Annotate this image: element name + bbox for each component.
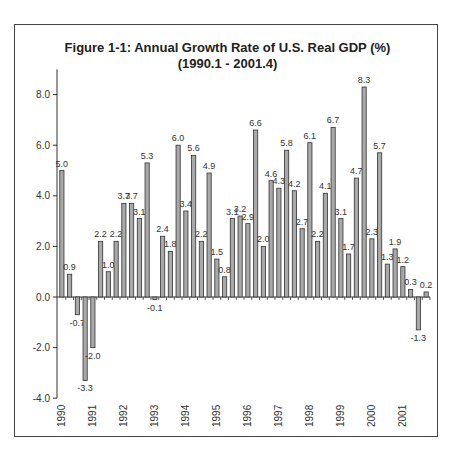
data-label: 2.2 [311, 229, 324, 239]
bar [192, 155, 196, 297]
bar [316, 241, 320, 297]
data-label: 1.2 [397, 255, 410, 265]
bar [409, 289, 413, 297]
x-tick-label: 1993 [149, 404, 160, 427]
x-tick-label: 2000 [366, 404, 377, 427]
bar [378, 153, 382, 297]
x-tick-label: 1991 [87, 404, 98, 427]
x-tick-label: 1999 [335, 404, 346, 427]
bar [347, 254, 351, 297]
bar [323, 193, 327, 297]
data-label: 5.0 [56, 159, 69, 169]
bar [308, 143, 312, 297]
bar [91, 297, 95, 348]
bar [207, 173, 211, 297]
bar [223, 277, 227, 297]
data-label: 2.4 [156, 224, 169, 234]
bar [168, 251, 172, 297]
data-label: -2.0 [85, 351, 101, 361]
data-label: 5.3 [141, 151, 154, 161]
y-tick-label: 6.0 [36, 140, 50, 151]
y-tick-label: -2.0 [33, 342, 51, 353]
bar [230, 219, 234, 297]
data-label: 2.7 [296, 217, 309, 227]
x-tick-label: 1992 [118, 404, 129, 427]
data-label: 0.9 [63, 262, 76, 272]
y-tick-label: 0.0 [36, 292, 50, 303]
data-label: -3.3 [77, 383, 93, 393]
data-label: 1.9 [389, 237, 402, 247]
data-label: 0.3 [404, 277, 417, 287]
data-label: 2.2 [110, 229, 123, 239]
bar [137, 219, 141, 297]
y-tick-label: 2.0 [36, 241, 50, 252]
data-label: 4.7 [350, 166, 363, 176]
bar [292, 191, 296, 297]
y-tick-label: -4.0 [33, 393, 51, 404]
bar [75, 297, 79, 315]
bar [261, 246, 265, 297]
bar [416, 297, 420, 330]
y-tick-label: 8.0 [36, 89, 50, 100]
data-label: 6.7 [327, 115, 340, 125]
data-label: 2.3 [366, 227, 379, 237]
data-label: 5.7 [373, 141, 386, 151]
bar [176, 145, 180, 297]
data-label: 4.2 [288, 179, 301, 189]
bar [254, 130, 258, 297]
data-label: 2.2 [94, 229, 107, 239]
bar [106, 272, 110, 297]
data-label: 0.2 [420, 280, 433, 290]
bar [114, 241, 118, 297]
data-label: 1.3 [381, 252, 394, 262]
bar [145, 163, 149, 297]
bar-chart: -4.0-2.00.02.04.06.08.05.00.9-0.7-3.3-2.… [0, 0, 455, 451]
bar [153, 297, 157, 300]
data-label: 5.6 [187, 143, 200, 153]
data-label: 2.2 [195, 229, 208, 239]
data-label: 4.1 [319, 181, 332, 191]
x-tick-label: 1998 [304, 404, 315, 427]
y-tick-label: 4.0 [36, 190, 50, 201]
data-label: 4.9 [203, 161, 216, 171]
data-label: 1.8 [164, 239, 177, 249]
bar [83, 297, 87, 380]
data-label: -1.3 [411, 333, 427, 343]
bar [269, 181, 273, 297]
bar [370, 239, 374, 297]
bar [122, 203, 126, 297]
data-label: 8.3 [358, 75, 371, 85]
data-label: 6.6 [249, 118, 262, 128]
x-tick-label: 1994 [180, 404, 191, 427]
data-label: 0.8 [218, 265, 231, 275]
data-label: 3.4 [180, 199, 193, 209]
data-label: 5.8 [280, 138, 293, 148]
data-label: 4.3 [273, 176, 286, 186]
data-label: 1.5 [211, 247, 224, 257]
x-tick-label: 1990 [56, 404, 67, 427]
bar [246, 224, 250, 297]
bar [285, 150, 289, 297]
data-label: 3.7 [125, 191, 138, 201]
bar [130, 203, 134, 297]
data-label: 3.1 [335, 207, 348, 217]
x-tick-label: 2001 [397, 404, 408, 427]
bar [184, 211, 188, 297]
data-label: 1.0 [102, 260, 115, 270]
data-label: 2.0 [257, 234, 270, 244]
bar [339, 219, 343, 297]
data-label: 3.1 [133, 207, 146, 217]
bar [385, 264, 389, 297]
data-label: 1.7 [342, 242, 355, 252]
bar [424, 292, 428, 297]
bar [199, 241, 203, 297]
x-tick-label: 1995 [211, 404, 222, 427]
bar [60, 171, 64, 298]
x-tick-label: 1996 [242, 404, 253, 427]
data-label: 6.0 [172, 133, 185, 143]
bar [68, 274, 72, 297]
data-label: 2.9 [242, 212, 255, 222]
bar [238, 216, 242, 297]
bar [362, 87, 366, 297]
bar [300, 229, 304, 297]
